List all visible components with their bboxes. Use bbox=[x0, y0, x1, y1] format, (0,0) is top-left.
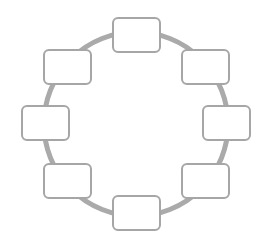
cycle-node-top-right bbox=[182, 50, 229, 84]
cycle-node-left bbox=[22, 106, 69, 140]
node-box bbox=[203, 106, 250, 140]
node-box bbox=[113, 18, 160, 52]
cycle-node-top-left bbox=[44, 50, 91, 84]
node-box bbox=[182, 164, 229, 198]
node-box bbox=[44, 164, 91, 198]
cycle-node-right bbox=[203, 106, 250, 140]
cycle-diagram bbox=[0, 0, 272, 245]
cycle-node-top bbox=[113, 18, 160, 52]
node-box bbox=[22, 106, 69, 140]
node-box bbox=[182, 50, 229, 84]
cycle-node-bottom-right bbox=[182, 164, 229, 198]
cycle-node-bottom-left bbox=[44, 164, 91, 198]
cycle-nodes bbox=[22, 18, 250, 230]
node-box bbox=[44, 50, 91, 84]
node-box bbox=[113, 196, 160, 230]
cycle-node-bottom bbox=[113, 196, 160, 230]
